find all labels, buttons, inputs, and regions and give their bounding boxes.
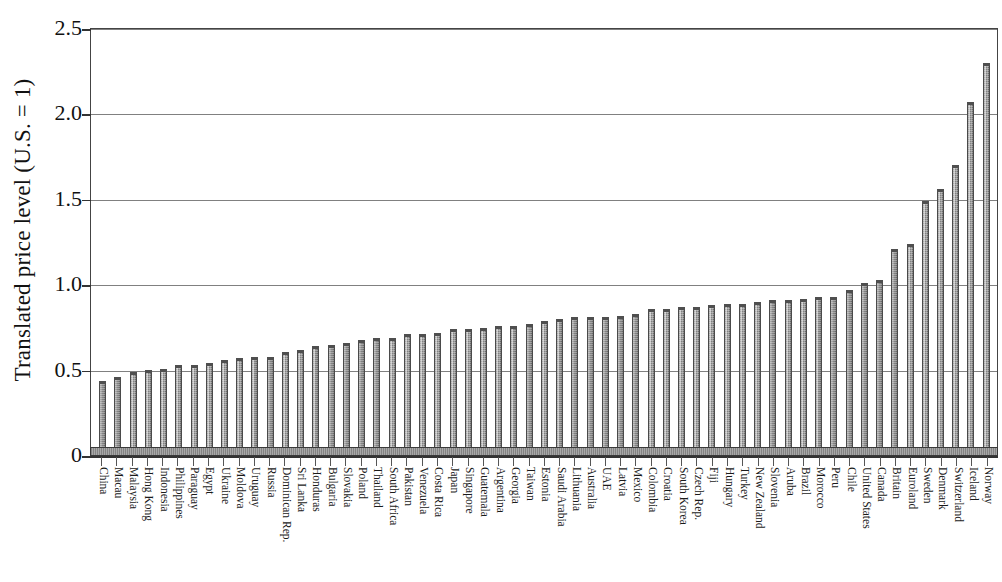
x-tick-mark (620, 457, 621, 466)
bar (769, 301, 776, 455)
x-tick-label: Moldova (235, 467, 247, 509)
x-label-slot: Taiwan (521, 467, 536, 582)
x-tick-mark (406, 457, 407, 466)
x-tick-mark (330, 457, 331, 466)
plot-area (90, 28, 998, 455)
bar (251, 358, 258, 455)
x-tick-mark (376, 457, 377, 466)
x-tick-label: South Africa (387, 467, 399, 525)
x-tick-slot (384, 457, 399, 467)
bar-slot (491, 29, 506, 455)
x-label-slot: South Africa (384, 467, 399, 582)
x-tick-label: Argentina (494, 467, 506, 513)
bar (891, 250, 898, 455)
x-tick-slot (247, 457, 262, 467)
bar (846, 291, 853, 455)
bar-slot (415, 29, 430, 455)
bar (663, 310, 670, 455)
x-tick-label: Macau (113, 467, 125, 498)
x-label-slot: Turkey (735, 467, 750, 582)
x-tick-label: Philippines (174, 467, 186, 519)
x-label-slot: Hungary (720, 467, 735, 582)
x-tick-mark (895, 457, 896, 466)
x-tick-mark (193, 457, 194, 466)
bar-slot (384, 29, 399, 455)
x-tick-mark (941, 457, 942, 466)
x-tick-slot (125, 457, 140, 467)
x-tick-slot (399, 457, 414, 467)
bar (739, 305, 746, 455)
x-tick-label: Paraguay (189, 467, 201, 510)
x-tick-mark (834, 457, 835, 466)
bar (404, 335, 411, 455)
x-tick-slot (186, 457, 201, 467)
x-tick-label: Aruba (784, 467, 796, 496)
x-tick-label: Slovakia (342, 467, 354, 507)
x-tick-label: Georgia (509, 467, 521, 504)
x-tick-mark (696, 457, 697, 466)
bar-slot (202, 29, 217, 455)
x-label-slot: Hong Kong (140, 467, 155, 582)
bar-slot (506, 29, 521, 455)
bar (99, 382, 106, 455)
x-tick-slot (903, 457, 918, 467)
x-label-slot: Russia (262, 467, 277, 582)
bar (328, 346, 335, 455)
x-tick-slot (811, 457, 826, 467)
x-tick-label: Uruguay (250, 467, 262, 507)
x-tick-slot (521, 457, 536, 467)
bar-slot (125, 29, 140, 455)
bar-slot (232, 29, 247, 455)
bar (510, 327, 517, 455)
x-tick-label: China (97, 467, 109, 494)
x-tick-label: Australia (586, 467, 598, 509)
bar (145, 371, 152, 455)
bar-slot (171, 29, 186, 455)
x-tick-label: Saudi Arabia (555, 467, 567, 527)
bar-slot (674, 29, 689, 455)
x-tick-label: Latvia (616, 467, 628, 496)
x-label-slot: Slovakia (338, 467, 353, 582)
bar-slot (278, 29, 293, 455)
x-label-slot: Fiji (705, 467, 720, 582)
bar (343, 344, 350, 455)
y-tick-label: 1.0 (38, 273, 82, 295)
x-tick-slot (201, 457, 216, 467)
bar-slot (765, 29, 780, 455)
x-tick-mark (254, 457, 255, 466)
x-tick-slot (308, 457, 323, 467)
x-tick-mark (208, 457, 209, 466)
bar (480, 329, 487, 455)
bar-slot (887, 29, 902, 455)
x-tick-label: Slovenia (769, 467, 781, 507)
x-tick-label: Czech Rep. (693, 467, 705, 520)
y-tick-label: 1.5 (38, 188, 82, 210)
bar (861, 284, 868, 455)
x-label-slot: Japan (445, 467, 460, 582)
y-tick-mark (82, 371, 91, 373)
bar (632, 315, 639, 455)
bar (358, 341, 365, 455)
bar (389, 339, 396, 455)
bar-slot (354, 29, 369, 455)
x-tick-mark (177, 457, 178, 466)
x-label-slot: Mexico (628, 467, 643, 582)
x-tick-label: Colombia (647, 467, 659, 512)
x-tick-label: Taiwan (525, 467, 537, 501)
bar-slot (141, 29, 156, 455)
bar (465, 330, 472, 455)
bar (175, 366, 182, 455)
bar (221, 361, 228, 455)
bar-slot (110, 29, 125, 455)
x-label-slot: Sri Lanka (292, 467, 307, 582)
chart-figure: Translated price level (U.S. = 1) 00.51.… (0, 0, 1002, 582)
bar (297, 351, 304, 455)
x-tick-slot (613, 457, 628, 467)
x-label-slot: Malaysia (125, 467, 140, 582)
x-tick-label: Turkey (738, 467, 750, 500)
bar-slot (400, 29, 415, 455)
x-tick-mark (803, 457, 804, 466)
bar-slot (826, 29, 841, 455)
bar-slot (948, 29, 963, 455)
x-tick-mark (300, 457, 301, 466)
